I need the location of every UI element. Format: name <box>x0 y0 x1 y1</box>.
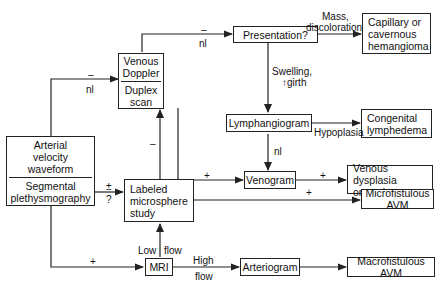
lymphangiogram-node: Lymphangiogram <box>226 114 312 132</box>
node-text: Lymphangiogram <box>227 117 311 129</box>
edge-label: Hypoplasia <box>314 127 363 138</box>
node-text: Capillary or <box>368 16 430 28</box>
node-text: Arterial <box>7 139 94 151</box>
node-text: cavernous <box>368 28 430 40</box>
edge-label: ↑girth <box>282 77 306 88</box>
node-text: Macrofistulous AVM <box>348 255 434 279</box>
edge-label: + <box>306 187 312 198</box>
edge-label: flow <box>195 271 213 282</box>
edge-label: ± <box>106 181 112 192</box>
edge-label: nl <box>274 146 282 157</box>
labeled-microsphere-node: Labeled microsphere study <box>124 179 194 222</box>
node-text: hemangioma <box>368 40 430 52</box>
venogram-node: Venogram <box>244 171 296 189</box>
node-text: Venous dysplasia <box>353 162 432 186</box>
arterial-velocity-node: Arterial velocity waveform Segmental ple… <box>6 136 95 206</box>
node-text: Segmental <box>7 180 94 192</box>
node-text: Doppler <box>119 67 163 79</box>
node-text: Venous <box>119 55 163 67</box>
edge-label: High <box>193 255 214 266</box>
node-text: plethysmography <box>7 192 94 204</box>
node-text: lymphedema <box>367 124 431 136</box>
edge-label: + <box>320 170 326 181</box>
macrofistulous-avm-node: Macrofistulous AVM <box>347 257 435 277</box>
node-text: microsphere <box>130 195 193 207</box>
edge-label: – <box>88 69 94 80</box>
edge-label: flow <box>164 245 182 256</box>
edge-label: nl <box>86 84 94 95</box>
node-text: Labeled <box>130 183 193 195</box>
edge-label: discoloration <box>306 22 362 33</box>
edge-label: + <box>204 170 210 181</box>
edge-label: Swelling, <box>272 66 312 77</box>
node-text: Venogram <box>245 174 295 186</box>
venous-doppler-node: Venous Doppler Duplex scan <box>118 53 164 109</box>
node-text: velocity <box>7 151 94 163</box>
divider <box>121 81 161 82</box>
edge-label: Low <box>138 245 156 256</box>
edge-label: + <box>90 256 96 267</box>
divider <box>9 177 92 178</box>
node-text: Duplex <box>119 84 163 96</box>
capillary-hemangioma-node: Capillary or cavernous hemangioma <box>362 13 431 54</box>
node-text: study <box>130 207 193 219</box>
node-text: waveform <box>7 163 94 175</box>
node-text: Arteriogram <box>241 261 299 273</box>
node-text: Microfistulous AVM <box>362 187 433 211</box>
edge-label: – <box>201 24 207 35</box>
mri-node: MRI <box>145 258 173 276</box>
edge-label: nl <box>199 38 207 49</box>
microfistulous-avm-node: Microfistulous AVM <box>361 189 434 209</box>
node-text: scan <box>119 96 163 108</box>
congenital-lymphedema-node: Congenital lymphedema <box>361 109 432 138</box>
node-text: Congenital <box>367 112 431 124</box>
edge-label: – <box>150 138 156 149</box>
arteriogram-node: Arteriogram <box>240 258 300 276</box>
edge-label: Mass, <box>322 11 348 22</box>
edge-label: ? <box>106 194 112 205</box>
node-text: MRI <box>146 261 172 273</box>
node-text: Presentation? <box>234 29 317 41</box>
